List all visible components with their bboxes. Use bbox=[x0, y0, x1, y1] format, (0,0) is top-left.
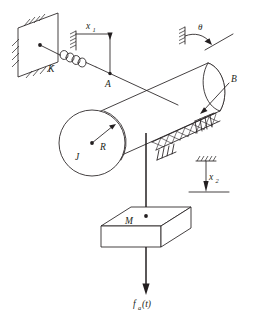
force-label-arg: (t) bbox=[142, 299, 151, 310]
mass-block: M bbox=[101, 207, 191, 247]
x2-label: x bbox=[208, 172, 214, 182]
x1-label: x bbox=[85, 21, 91, 31]
theta-label: θ bbox=[198, 22, 203, 32]
x1-reference: x 1 bbox=[70, 21, 113, 74]
damper-ground-ticks-left bbox=[157, 144, 176, 160]
drum-center-dot bbox=[90, 141, 94, 145]
cylinder-top-line bbox=[92, 63, 208, 115]
spring-coils bbox=[60, 51, 86, 68]
cylinder-end-cap bbox=[203, 63, 225, 111]
spring-lead-right bbox=[86, 63, 96, 68]
radius-label: R bbox=[99, 142, 106, 152]
point-a-label: A bbox=[104, 79, 111, 89]
mechanical-system-diagram: K A x 1 bbox=[0, 0, 256, 312]
damper-ground-ticks-right bbox=[195, 113, 214, 133]
force-label-sub: a bbox=[138, 304, 141, 311]
x1-label-sub: 1 bbox=[93, 26, 96, 33]
mass-attach-dot bbox=[144, 214, 148, 218]
theta-ground-hatch bbox=[179, 27, 185, 44]
theta-reference: θ bbox=[179, 22, 233, 50]
force-arrow-group: f a (t) bbox=[133, 247, 151, 311]
spring-label: K bbox=[47, 64, 55, 74]
mass-front-face bbox=[101, 226, 161, 247]
x2-reference: x 2 bbox=[189, 156, 229, 192]
damper-arrowhead bbox=[200, 107, 208, 114]
damper-label: B bbox=[231, 74, 237, 84]
mass-label: M bbox=[124, 216, 134, 226]
diagram-canvas: K A x 1 bbox=[0, 0, 256, 312]
damper-crosshatch bbox=[152, 114, 218, 150]
x2-label-sub: 2 bbox=[216, 177, 220, 184]
x2-arrowhead bbox=[203, 181, 208, 192]
force-label: f bbox=[133, 299, 137, 309]
force-arrowhead bbox=[142, 284, 149, 296]
theta-arrowhead bbox=[205, 38, 213, 45]
x2-ground-hatch bbox=[197, 156, 216, 161]
x1-ground-hatch bbox=[70, 31, 76, 48]
cable-upper-group: A bbox=[96, 67, 178, 105]
